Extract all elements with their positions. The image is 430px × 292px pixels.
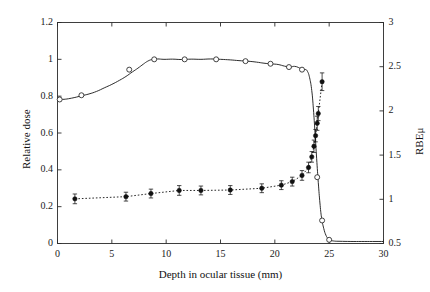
x-tick-label: 25 xyxy=(317,248,341,259)
y-axis-title: Relative dose xyxy=(20,109,32,169)
plot-frame xyxy=(58,23,384,244)
y2-tick-label: 3 xyxy=(389,16,394,27)
x-tick-label: 15 xyxy=(209,248,233,259)
y2-tick-label: 1.5 xyxy=(389,149,402,160)
y2-tick-label: 0.5 xyxy=(389,237,402,248)
y-tick-label: 0 xyxy=(22,237,53,248)
x-tick-label: 5 xyxy=(100,248,124,259)
y2-tick-label: 2 xyxy=(389,104,394,115)
y-tick-label: 0.2 xyxy=(22,200,53,211)
y2-axis-title: RBEμ xyxy=(413,128,425,155)
y-tick-label: 1 xyxy=(22,53,53,64)
series-relative-dose xyxy=(57,57,383,242)
figure-container: 051015202530 00.20.40.60.811.2 0.511.522… xyxy=(0,0,430,292)
y2-tick-label: 1 xyxy=(389,193,394,204)
x-axis-title: Depth in ocular tissue (mm) xyxy=(0,268,430,280)
axis-ticks xyxy=(58,23,384,244)
series-rbe xyxy=(73,73,325,204)
y2-tick-label: 2.5 xyxy=(389,60,402,71)
x-tick-label: 0 xyxy=(46,248,70,259)
x-tick-label: 10 xyxy=(154,248,178,259)
y-tick-label: 1.2 xyxy=(22,16,53,27)
y-tick-label: 0.8 xyxy=(22,90,53,101)
x-tick-label: 30 xyxy=(372,248,396,259)
x-tick-label: 20 xyxy=(263,248,287,259)
